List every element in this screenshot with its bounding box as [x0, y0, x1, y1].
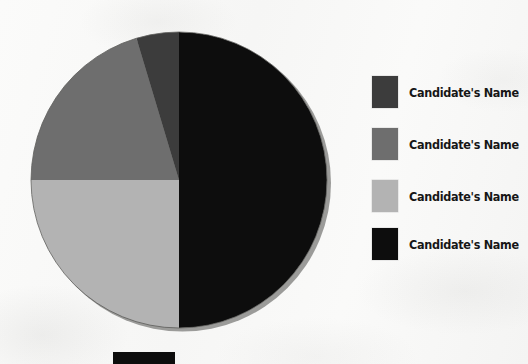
- legend-item[interactable]: Candidate's Name: [372, 128, 528, 160]
- pie-chart: [0, 0, 360, 364]
- legend-swatch-icon: [372, 128, 398, 160]
- legend-label: Candidate's Name: [409, 85, 519, 100]
- legend-swatch-icon: [372, 180, 398, 212]
- legend-item[interactable]: Candidate's Name: [372, 76, 528, 108]
- legend-swatch-icon: [372, 76, 398, 108]
- legend-label: Candidate's Name: [409, 189, 519, 204]
- pie-svg: [0, 0, 360, 364]
- pie-slice-2[interactable]: [31, 180, 179, 328]
- pie-slice-1[interactable]: [179, 32, 327, 328]
- bottom-swatch-bar: [113, 352, 175, 364]
- legend-label: Candidate's Name: [409, 137, 519, 152]
- legend-swatch-icon: [372, 228, 398, 260]
- legend-item[interactable]: Candidate's Name: [372, 228, 528, 260]
- legend-item[interactable]: Candidate's Name: [372, 180, 528, 212]
- pie-chart-figure: Candidate's Name Candidate's Name Candid…: [0, 0, 528, 364]
- legend-label: Candidate's Name: [409, 237, 519, 252]
